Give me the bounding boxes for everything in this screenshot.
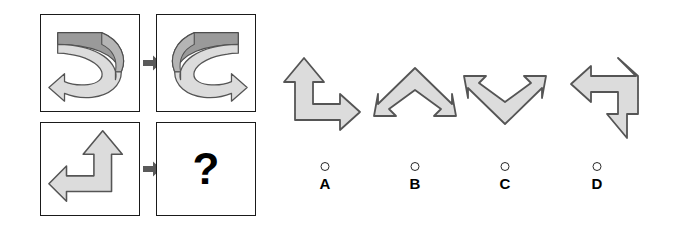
- matrix-cell-row2-source: [40, 122, 140, 216]
- vee-arrow-up-left-up-right-icon: [462, 52, 548, 152]
- chevron-arrow-down-left-down-right-icon: [372, 52, 458, 152]
- radio-option-c[interactable]: [501, 162, 510, 171]
- matrix-cell-row1-source: [40, 14, 140, 112]
- radio-option-b[interactable]: [411, 162, 420, 171]
- answer-option-b[interactable]: B: [372, 52, 458, 220]
- answer-option-c[interactable]: C: [462, 52, 548, 220]
- option-label-a: A: [282, 176, 368, 191]
- option-label-b: B: [372, 176, 458, 191]
- radio-option-d[interactable]: [593, 162, 602, 171]
- matrix-cell-row2-target: ?: [156, 122, 256, 216]
- answer-option-d[interactable]: D: [554, 52, 640, 220]
- l-arrow-up-right-icon: [282, 52, 368, 152]
- matrix-cell-row1-target: [156, 14, 256, 112]
- option-label-d: D: [554, 176, 640, 191]
- question-mark: ?: [157, 123, 255, 215]
- option-label-c: C: [462, 176, 548, 191]
- l-arrow-left-down-icon: [554, 52, 640, 152]
- answer-option-a[interactable]: A: [282, 52, 368, 220]
- puzzle-canvas: ? A B: [0, 0, 688, 226]
- radio-option-a[interactable]: [321, 162, 330, 171]
